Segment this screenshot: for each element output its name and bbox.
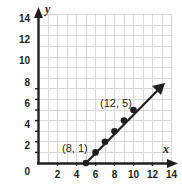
data-point	[92, 149, 99, 156]
y-axis	[34, 7, 43, 163]
y-tick-label-6: 6	[12, 99, 30, 109]
annotation-point-12-5: (12, 5)	[100, 98, 132, 109]
y-axis-label: y	[45, 3, 50, 15]
coordinate-graph: 14 12 10 8 6 4 2 0 2 4 6 8 10 12 14 y x …	[0, 0, 182, 189]
x-tick-label-14: 14	[164, 170, 180, 180]
data-point	[83, 160, 90, 167]
y-tick-label-12: 12	[12, 35, 30, 45]
data-point	[111, 128, 118, 135]
x-tick-label-2: 2	[50, 170, 66, 180]
y-tick-label-8: 8	[12, 78, 30, 88]
data-point	[102, 139, 109, 146]
x-tick-label-8: 8	[107, 170, 123, 180]
y-tick-label-4: 4	[12, 120, 30, 130]
origin-tick-label: 0	[12, 167, 30, 177]
annotation-point-8-1: (8, 1)	[62, 143, 88, 154]
x-axis-label: x	[163, 143, 169, 155]
data-point	[121, 117, 128, 124]
x-tick-label-12: 12	[145, 170, 161, 180]
plot-area	[0, 0, 182, 189]
y-tick-label-10: 10	[12, 56, 30, 66]
y-tick-label-14: 14	[12, 14, 30, 24]
x-tick-label-4: 4	[69, 170, 85, 180]
x-tick-label-6: 6	[88, 170, 104, 180]
y-tick-label-2: 2	[12, 141, 30, 151]
x-tick-label-10: 10	[126, 170, 142, 180]
